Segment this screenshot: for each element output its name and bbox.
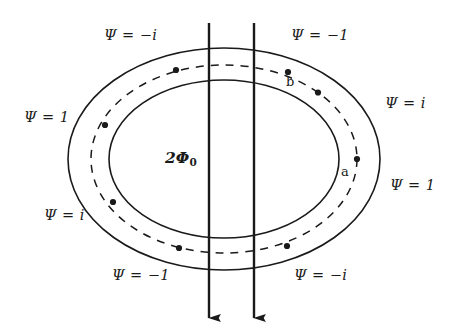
flux-quantum-subscript: 0 — [189, 156, 196, 168]
inner-ring — [109, 80, 339, 238]
path-dot-4 — [102, 122, 108, 128]
psi-label-top-left: Ψ = −i — [104, 28, 157, 43]
path-dot-7 — [284, 243, 290, 249]
psi-label-top-right: Ψ = −1 — [291, 28, 349, 43]
point-label-a: a — [341, 165, 349, 178]
diagram-canvas — [0, 0, 456, 334]
psi-label-bottom-right: Ψ = −i — [294, 268, 347, 283]
psi-label-right-lower: Ψ = 1 — [390, 178, 435, 193]
path-dot-5 — [110, 199, 116, 205]
flux-ring-diagram: Ψ = −i Ψ = −1 Ψ = 1 Ψ = i Ψ = 1 Ψ = i Ψ … — [0, 0, 456, 334]
psi-label-bottom-left: Ψ = −1 — [112, 268, 170, 283]
flux-quantum-base: 2Φ — [165, 148, 189, 167]
psi-label-right-upper: Ψ = i — [385, 96, 426, 111]
path-dot-6 — [176, 245, 182, 251]
psi-label-left-upper: Ψ = 1 — [24, 110, 69, 125]
outer-ring — [68, 48, 380, 270]
flux-quantum-label: 2Φ0 — [165, 150, 197, 167]
path-dot-a — [354, 156, 360, 162]
path-dot-3 — [173, 67, 179, 73]
point-label-b: b — [286, 75, 294, 88]
path-dot-b — [315, 89, 321, 95]
psi-label-left-lower: Ψ = i — [44, 208, 85, 223]
